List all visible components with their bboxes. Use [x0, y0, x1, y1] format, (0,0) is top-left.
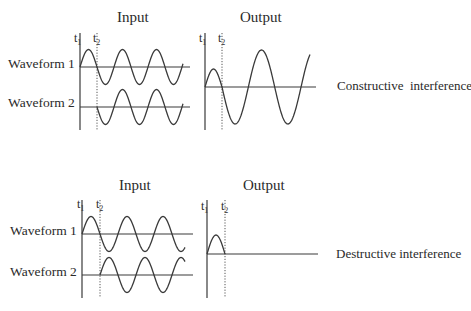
input-title: Input [119, 177, 151, 193]
waveform-2-label: Waveform 2 [10, 264, 77, 279]
output-t2-marker: t2 [221, 199, 228, 215]
output-title: Output [243, 177, 286, 193]
destructive-interference-label: Destructive interference [336, 246, 461, 261]
constructive-interference-label: Constructive interference [337, 78, 471, 93]
t2-marker: t2 [96, 197, 103, 213]
destructive-panel: Input Output t1 t2 t1 t2 Waveform 1 Wave… [10, 177, 461, 298]
waveform-1-label: Waveform 1 [8, 56, 75, 71]
output-title: Output [240, 9, 283, 25]
interference-diagram: Input Output t1 t2 t1 t2 Waveform 1 Wave… [0, 0, 471, 311]
input-title: Input [117, 9, 149, 25]
waveform-1-label: Waveform 1 [10, 223, 77, 238]
waveform-2-label: Waveform 2 [8, 95, 75, 110]
constructive-panel: Input Output t1 t2 t1 t2 Waveform 1 Wave… [8, 9, 471, 130]
t1-marker: t1 [77, 197, 84, 213]
output-sum-wave [207, 235, 225, 254]
